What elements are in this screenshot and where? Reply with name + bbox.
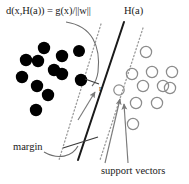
open-point — [146, 66, 157, 77]
svm-margin-diagram: d(x,H(a)) = g(x)/||w|| H(a) margin suppo… — [0, 0, 189, 184]
svm-plot-canvas — [0, 0, 189, 184]
margin-label: margin — [13, 142, 43, 153]
margin-width-tick — [63, 137, 98, 148]
open-point — [164, 82, 175, 93]
filled-point — [30, 104, 42, 116]
support-vectors-label: support vectors — [101, 166, 165, 177]
open-point-group — [114, 46, 178, 129]
open-point-support-vector — [140, 46, 151, 57]
filled-point — [38, 42, 50, 54]
distance-r-label: r — [99, 85, 102, 93]
filled-point — [56, 50, 68, 62]
filled-point — [32, 55, 44, 67]
hyperplane-label: H(a) — [124, 6, 143, 17]
filled-point — [20, 54, 32, 66]
distance-formula-label: d(x,H(a)) = g(x)/||w|| — [6, 6, 91, 17]
open-point — [137, 80, 148, 91]
support-vector-arrow-right — [124, 104, 128, 163]
filled-point — [31, 80, 43, 92]
filled-point-group — [16, 42, 87, 116]
filled-point — [73, 45, 85, 57]
support-vector-arrow-left — [105, 99, 120, 163]
filled-point — [16, 71, 28, 83]
filled-point-support-vector — [75, 74, 87, 86]
open-point — [127, 118, 138, 129]
filled-point — [56, 68, 68, 80]
open-point — [166, 66, 177, 77]
filled-point — [42, 89, 54, 101]
distance-r-segment — [85, 79, 99, 84]
open-point — [157, 80, 168, 91]
open-point — [130, 97, 141, 108]
open-point — [151, 97, 162, 108]
